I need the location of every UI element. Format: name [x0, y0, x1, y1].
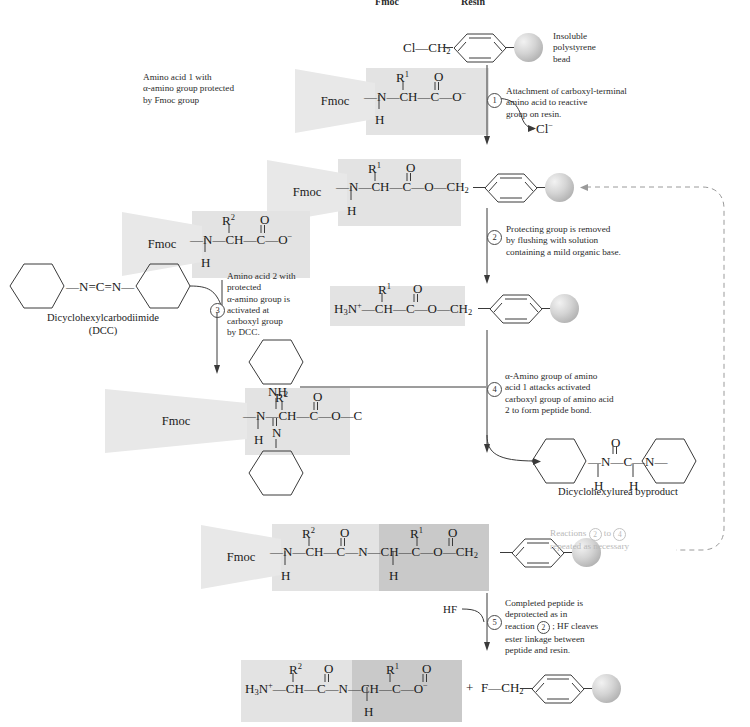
annotation-step5-line-3: reaction 2 ; HF cleaves: [505, 621, 670, 634]
fmoc-label-5: Fmoc: [227, 550, 255, 565]
dcc-caption-line-2: (DCC): [8, 325, 198, 338]
bonds-activated-vertical: [249, 398, 329, 438]
o-terminal: O−: [452, 89, 466, 104]
step5-word-reaction: reaction: [505, 621, 535, 631]
bead-annotation-line-1: Insoluble: [553, 31, 643, 42]
recycle-dashed-loop: [584, 178, 744, 563]
chloride-ion: Cl−: [536, 120, 553, 137]
bonds-dipeptide-vertical: [276, 534, 466, 574]
ester-o-2: O: [424, 179, 433, 194]
benzene-ring-resin-3: [488, 292, 544, 326]
top-label-resin: Resin: [448, 0, 498, 7]
step-number-2: 2: [487, 230, 502, 245]
annotation-step1-line-2: amino acid to reactive: [506, 97, 671, 108]
annotation-step-1: Attachment of carboxyl-terminal amino ac…: [506, 86, 671, 120]
dcc-n-right: N: [112, 279, 121, 294]
ch2-linker-3: CH2: [450, 301, 472, 316]
ch2-linker-2: CH2: [447, 179, 469, 194]
dcc-cyclohexyl-right: [134, 262, 192, 310]
polystyrene-bead-2: [545, 173, 574, 202]
annotation-step-5: Completed peptide is deprotected as in r…: [505, 598, 670, 656]
dcc-core: —N=C=N—: [66, 279, 134, 295]
bonds-aa2-vertical: [196, 221, 276, 261]
bond-activated-to-step4: [300, 383, 490, 391]
isourea-c: C: [354, 408, 363, 423]
fmoc-label: Fmoc: [321, 94, 349, 109]
final-ammonium-group: H3N+: [245, 681, 273, 696]
step5-ref-step-number-2: 2: [537, 621, 550, 634]
annotation-aa1-line-2: α-amino group protected: [143, 83, 293, 94]
bead-annotation-line-2: polystyrene: [553, 42, 643, 53]
arrowhead-chloride: [528, 124, 538, 134]
cl-atom: Cl: [403, 40, 415, 55]
bonds-aa1-vertical-1: [370, 78, 450, 118]
repeat-word-reactions: Reactions: [550, 528, 586, 538]
annotation-aa1-line-1: Amino acid 1 with: [143, 72, 293, 83]
fmoc-label-2: Fmoc: [293, 185, 321, 200]
annotation-aa2-line-2: protected: [227, 282, 327, 293]
dcu-cyclohexyl-left: [530, 437, 588, 485]
bonds-final-vertical: [287, 670, 457, 710]
cyclohexyl-isourea-top: [247, 338, 305, 386]
benzene-ring-resin-6: [530, 672, 586, 706]
annotation-aa2-line-5: carboxyl group: [227, 316, 327, 327]
fmoc-group-activated: Fmoc: [105, 389, 247, 453]
bead-annotation: Insoluble polystyrene bead: [553, 31, 643, 65]
annotation-aa2-line-1: Amino acid 2 with: [227, 271, 327, 282]
annotation-step5-line-1: Completed peptide is: [505, 598, 670, 609]
annotation-amino-acid-2: Amino acid 2 with protected α-amino grou…: [227, 271, 327, 339]
bonds-aa1-vertical-3: [376, 290, 436, 312]
fmoc-label-aa2: Fmoc: [148, 237, 176, 252]
bond-hf-to-arrow: [462, 606, 492, 626]
hf-reagent-label: HF: [443, 603, 457, 615]
polystyrene-bead-3: [550, 294, 579, 323]
annotation-aa1-line-3: by Fmoc group: [143, 95, 293, 106]
f-ch2-group: F—CH2: [481, 680, 524, 696]
benzene-ring-resin-2: [483, 171, 539, 205]
fmoc-group-5: Fmoc: [201, 525, 281, 589]
benzene-ring-resin-0: [452, 31, 508, 65]
cyclohexyl-isourea-bottom: [247, 449, 305, 497]
dcc-n-left: N: [79, 279, 88, 294]
annotation-step5-line-4: ester linkage between: [505, 634, 670, 645]
annotation-step5-line-5: peptide and resin.: [505, 645, 670, 656]
step-number-1: 1: [487, 93, 502, 108]
reaction-arrow-2: [483, 208, 491, 286]
top-label-fmoc: Fmoc: [362, 0, 412, 7]
annotation-step1-line-1: Attachment of carboxyl-terminal: [506, 86, 671, 97]
annotation-aa2-line-4: activated at: [227, 305, 327, 316]
annotation-amino-acid-1: Amino acid 1 with α-amino group protecte…: [143, 72, 293, 106]
annotation-step5-line-2: deprotected as in: [505, 609, 670, 620]
polystyrene-bead-0: [514, 33, 543, 62]
double-bond-c-n: [270, 418, 284, 430]
dcc-double-bond-2: =: [104, 279, 111, 294]
ammonium-group: H3N+: [334, 301, 362, 316]
o-terminal-aa2: O−: [278, 232, 292, 247]
plus-sign: +: [466, 680, 473, 696]
step5-text-hf-cleaves: ; HF cleaves: [552, 621, 598, 631]
annotation-aa2-line-3: α-amino group is: [227, 294, 327, 305]
bonds-aa1-vertical-2: [342, 169, 422, 209]
annotation-step1-line-3: group on resin.: [506, 109, 671, 120]
bond-c-to-nh: [273, 398, 281, 412]
fmoc-label-activated: Fmoc: [162, 414, 190, 429]
polystyrene-bead-6: [592, 674, 621, 703]
bead-annotation-line-3: bead: [553, 54, 643, 65]
dcc-caption-line-1: Dicyclohexylcarbodiimide: [8, 312, 198, 325]
dcc-caption: Dicyclohexylcarbodiimide (DCC): [8, 312, 198, 337]
reaction-arrow-3: [213, 312, 221, 376]
fmoc-group-1: Fmoc: [295, 69, 375, 133]
dcc-double-bond-1: =: [88, 279, 95, 294]
dcc-cyclohexyl-left: [8, 262, 66, 310]
ester-o-activated: O: [331, 408, 340, 423]
